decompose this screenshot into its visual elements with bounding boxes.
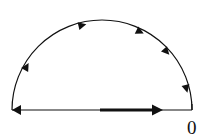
origin-label: 0 — [187, 118, 197, 137]
arc-arrowheads — [21, 22, 189, 93]
arc-arrowhead-icon — [182, 84, 190, 93]
thick-arrowhead-icon — [152, 105, 163, 116]
semicircle-arc — [12, 20, 192, 110]
arc-arrowhead-icon — [78, 22, 87, 30]
left-arrowhead-icon — [12, 105, 21, 115]
contour-diagram — [0, 0, 204, 138]
arc-arrowhead-icon — [161, 46, 169, 55]
